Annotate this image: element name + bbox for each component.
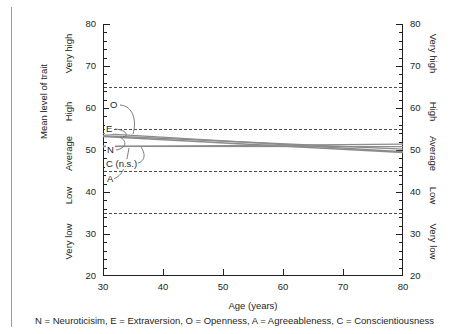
y-tick-label-60-left: 60 bbox=[76, 103, 96, 113]
trait-label-extraversion: E bbox=[105, 124, 113, 134]
trait-label-openness: O bbox=[109, 100, 118, 110]
x-tick-label-30: 30 bbox=[90, 282, 116, 292]
y-axis-title-left: Mean level of trait bbox=[38, 47, 49, 157]
y-tick-label-20-right: 20 bbox=[410, 271, 430, 281]
plot-area: O E N C (n.s.) A bbox=[103, 24, 403, 276]
y-tick-label-20-left: 20 bbox=[76, 271, 96, 281]
x-axis-title: Age (years) bbox=[103, 300, 403, 311]
y-tick-label-30-left: 30 bbox=[76, 229, 96, 239]
x-tick-label-40: 40 bbox=[150, 282, 176, 292]
leader-line-neuroticism bbox=[116, 137, 125, 150]
y-tick-label-60-right: 60 bbox=[410, 103, 430, 113]
y-tick-label-50-left: 50 bbox=[76, 145, 96, 155]
y-band-label-very-high-left: Very high bbox=[63, 26, 74, 82]
y-band-label-average-left: Average bbox=[63, 128, 74, 180]
leader-line-extraversion bbox=[115, 129, 126, 137]
y-band-label-very-low-left: Very low bbox=[63, 214, 74, 270]
leader-line-openness bbox=[120, 105, 134, 134]
y-tick-label-70-left: 70 bbox=[76, 61, 96, 71]
y-tick-label-80-right: 80 bbox=[410, 19, 430, 29]
y-tick-label-70-right: 70 bbox=[410, 61, 430, 71]
y-tick-label-30-right: 30 bbox=[410, 229, 430, 239]
y-tick-label-40-right: 40 bbox=[410, 187, 430, 197]
trait-label-neuroticism: N bbox=[106, 145, 115, 155]
trait-abbreviation-legend: N = Neuroticisim, E = Extraversion, O = … bbox=[0, 315, 469, 326]
leader-lines bbox=[103, 24, 403, 276]
trait-label-conscientiousness: C (n.s.) bbox=[105, 159, 138, 169]
y-band-label-high-left: High bbox=[63, 92, 74, 132]
x-tick-label-80: 80 bbox=[390, 282, 416, 292]
y-tick-label-80-left: 80 bbox=[76, 19, 96, 29]
x-tick-label-70: 70 bbox=[330, 282, 356, 292]
y-tick-label-40-left: 40 bbox=[76, 187, 96, 197]
y-band-label-low-left: Low bbox=[63, 180, 74, 212]
x-tick-label-50: 50 bbox=[210, 282, 236, 292]
y-band-label-very-high-right: Very high bbox=[428, 26, 439, 82]
y-band-label-very-low-right: Very low bbox=[428, 214, 439, 270]
personality-traits-by-age-chart: Mean level of trait Very high High Avera… bbox=[0, 0, 469, 334]
trait-label-agreeableness: A bbox=[106, 174, 114, 184]
y-tick-label-50-right: 50 bbox=[410, 145, 430, 155]
x-tick-label-60: 60 bbox=[270, 282, 296, 292]
